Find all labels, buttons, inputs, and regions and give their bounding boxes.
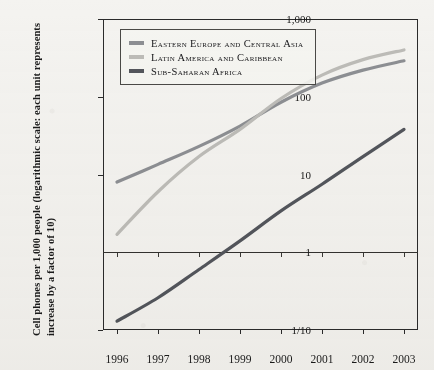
x-tick-mark (158, 330, 159, 334)
chart-page: Cell phones per 1,000 people (logarithmi… (0, 0, 434, 370)
legend-swatch-icon (129, 55, 144, 59)
x-tick-label: 1998 (188, 353, 211, 365)
legend-item-label: Sub-Saharan Africa (151, 66, 242, 77)
x-tick-label: 2002 (352, 353, 375, 365)
x-tick-label: 2000 (270, 353, 293, 365)
legend: Eastern Europe and Central Asia Latin Am… (120, 29, 316, 85)
x-tick-label: 1999 (229, 353, 252, 365)
x-tick-mark (404, 330, 405, 334)
x-tick-label: 1997 (147, 353, 170, 365)
legend-item-label: Latin America and Caribbean (151, 52, 283, 63)
x-tick-mark (199, 330, 200, 334)
plot-area: 1,0001001011/10 199619971998199920002001… (103, 19, 418, 330)
y-tick-mark (98, 330, 103, 331)
x-tick-mark (281, 330, 282, 334)
x-tick-mark (240, 330, 241, 334)
x-tick-label: 2003 (393, 353, 416, 365)
y-axis-title-container: Cell phones per 1,000 people (logarithmi… (0, 0, 34, 340)
legend-item-label: Eastern Europe and Central Asia (151, 38, 303, 49)
x-tick-mark (363, 330, 364, 334)
x-tick-label: 1996 (106, 353, 129, 365)
legend-swatch-icon (129, 69, 144, 73)
x-tick-mark (117, 330, 118, 334)
legend-item: Eastern Europe and Central Asia (129, 36, 303, 50)
x-tick-label: 2001 (311, 353, 334, 365)
legend-item: Latin America and Caribbean (129, 50, 303, 64)
legend-item: Sub-Saharan Africa (129, 64, 303, 78)
y-axis-title: Cell phones per 1,000 people (logarithmi… (30, 6, 57, 336)
x-tick-mark (322, 330, 323, 334)
series-line (117, 129, 404, 321)
legend-swatch-icon (129, 41, 144, 45)
